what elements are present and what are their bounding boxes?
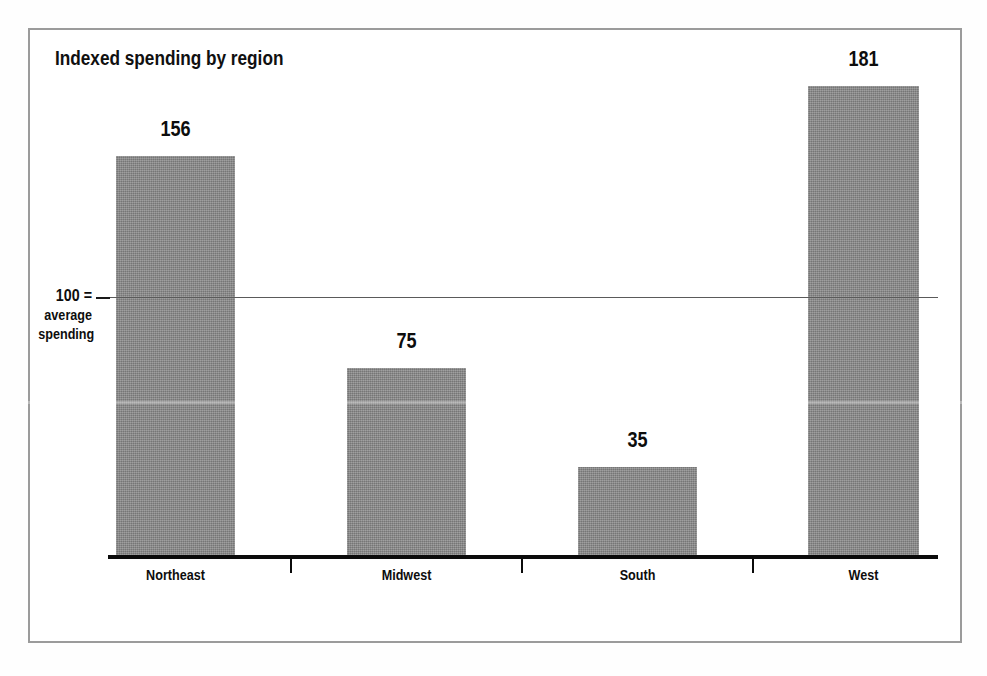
bar-west: [808, 86, 919, 557]
reference-line-100: [108, 297, 938, 298]
bar-midwest: [347, 368, 466, 557]
chart-figure: Indexed spending by region 156 Northeast…: [0, 0, 987, 676]
y-annotation-line-2: average: [38, 305, 92, 324]
reference-line-tick: [96, 297, 110, 299]
plot-area: 156 Northeast 75 Midwest 35 South 181 We…: [0, 0, 987, 676]
bar-value-northeast: 156: [127, 116, 225, 142]
bar-value-midwest: 75: [358, 328, 456, 354]
category-label-west: West: [817, 566, 910, 583]
x-axis-tick-3: [752, 559, 754, 573]
bar-south: [578, 467, 697, 557]
x-axis-tick-1: [290, 559, 292, 573]
bar-northeast: [116, 156, 235, 557]
y-annotation-line-3: spending: [38, 324, 92, 343]
bar-value-south: 35: [589, 427, 687, 453]
bar-value-west: 181: [818, 46, 909, 72]
category-label-midwest: Midwest: [357, 566, 457, 583]
y-axis-annotation: 100 = average spending: [28, 286, 92, 343]
category-label-northeast: Northeast: [126, 566, 226, 583]
y-annotation-line-1: 100 =: [38, 286, 92, 305]
x-axis-tick-2: [521, 559, 523, 573]
x-axis-baseline: [108, 555, 938, 559]
category-label-south: South: [588, 566, 688, 583]
